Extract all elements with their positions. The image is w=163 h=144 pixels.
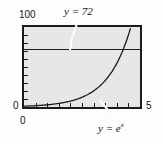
callout-leader-lines <box>0 0 163 144</box>
exponential-curve-annotation: y = ex <box>95 121 127 135</box>
leader-line-to-curve <box>100 100 112 120</box>
leader-line-to-horizontal-line <box>70 21 78 50</box>
horizontal-line-annotation: y = 72 <box>61 4 96 18</box>
curve-annotation-base: y = e <box>98 122 121 134</box>
exponential-function-figure: 100 0 0 5 y = 72 y = ex <box>0 0 163 144</box>
curve-annotation-exponent: x <box>121 121 124 129</box>
